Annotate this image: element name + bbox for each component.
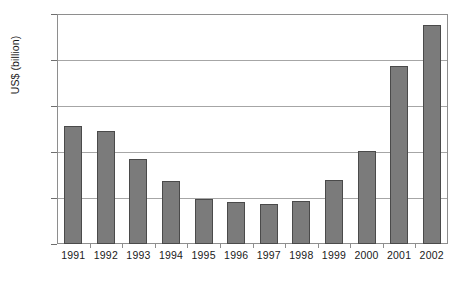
bar-chart: US$ (billion) 050100150200250 1991199219… xyxy=(0,0,460,282)
x-tick-label-2001: 2001 xyxy=(383,248,416,262)
bar-slot-1997 xyxy=(253,14,286,244)
bars-group xyxy=(57,14,448,244)
bar-1991[interactable] xyxy=(64,126,82,244)
bar-slot-1995 xyxy=(187,14,220,244)
bar-slot-2002 xyxy=(415,14,448,244)
y-axis-title: US$ (billion) xyxy=(8,20,22,110)
bar-1993[interactable] xyxy=(129,159,147,244)
bar-slot-1999 xyxy=(318,14,351,244)
bar-2002[interactable] xyxy=(423,25,441,244)
bar-slot-1998 xyxy=(285,14,318,244)
bar-2001[interactable] xyxy=(390,66,408,244)
x-tick-label-1993: 1993 xyxy=(122,248,155,262)
x-tick-label-1994: 1994 xyxy=(155,248,188,262)
bar-slot-2000 xyxy=(350,14,383,244)
bar-1995[interactable] xyxy=(195,199,213,244)
bar-slot-1996 xyxy=(220,14,253,244)
y-tick-mark-0 xyxy=(51,244,57,245)
bar-1996[interactable] xyxy=(227,202,245,244)
bar-slot-2001 xyxy=(383,14,416,244)
bar-1999[interactable] xyxy=(325,180,343,244)
bar-1997[interactable] xyxy=(260,204,278,244)
bar-1998[interactable] xyxy=(292,201,310,244)
bar-slot-1992 xyxy=(90,14,123,244)
bar-1994[interactable] xyxy=(162,181,180,244)
bar-1992[interactable] xyxy=(97,131,115,244)
x-tick-label-2002: 2002 xyxy=(415,248,448,262)
x-tick-label-1992: 1992 xyxy=(90,248,123,262)
x-tick-label-1991: 1991 xyxy=(57,248,90,262)
x-tick-label-1996: 1996 xyxy=(220,248,253,262)
x-axis-tick-labels: 1991199219931994199519961997199819992000… xyxy=(57,248,448,264)
x-tick-label-1995: 1995 xyxy=(187,248,220,262)
x-tick-label-2000: 2000 xyxy=(350,248,383,262)
bar-2000[interactable] xyxy=(358,151,376,244)
x-tick-label-1999: 1999 xyxy=(318,248,351,262)
bar-slot-1994 xyxy=(155,14,188,244)
bar-slot-1991 xyxy=(57,14,90,244)
x-tick-label-1997: 1997 xyxy=(253,248,286,262)
x-tick-label-1998: 1998 xyxy=(285,248,318,262)
bar-slot-1993 xyxy=(122,14,155,244)
